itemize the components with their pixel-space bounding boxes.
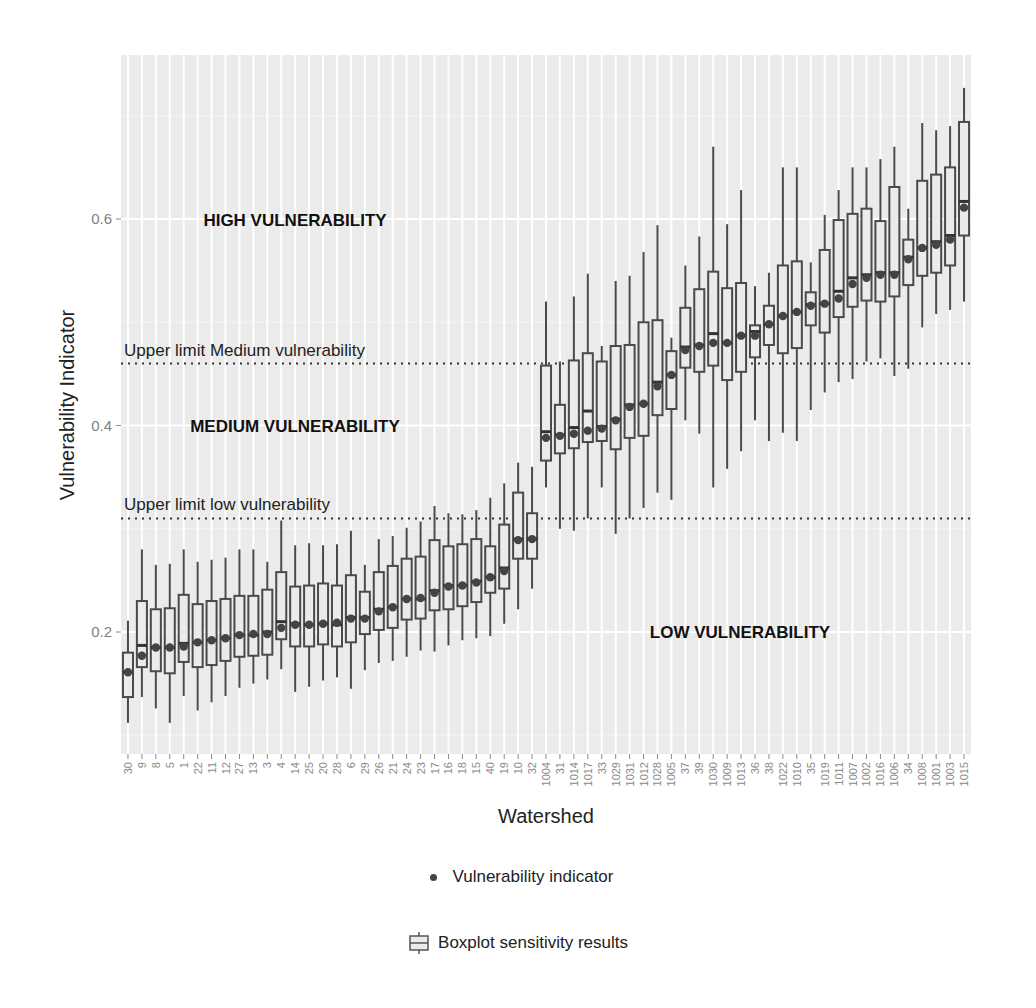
indicator-point [765, 320, 773, 328]
indicator-point [193, 638, 201, 646]
indicator-point [305, 621, 313, 629]
x-tick-label: 39 [693, 762, 705, 774]
x-tick-label: 3 [261, 762, 273, 768]
indicator-point [890, 271, 898, 279]
x-tick-label: 4 [275, 762, 287, 768]
indicator-point [807, 302, 815, 310]
indicator-point [486, 573, 494, 581]
indicator-point [904, 255, 912, 263]
y-axis-title: Vulnerability Indicator [56, 309, 78, 500]
x-tick-label: 1019 [819, 762, 831, 786]
indicator-point [625, 403, 633, 411]
x-tick-label: 1009 [721, 762, 733, 786]
indicator-point [347, 614, 355, 622]
x-tick-label: 1029 [610, 762, 622, 786]
y-axis: 0.20.40.6 [91, 210, 121, 640]
x-tick-label: 1015 [958, 762, 970, 786]
legend-label: Boxplot sensitivity results [438, 933, 628, 953]
x-tick-label: 27 [233, 762, 245, 774]
indicator-point [570, 430, 578, 438]
x-tick-label: 6 [345, 762, 357, 768]
indicator-point [500, 567, 508, 575]
indicator-point [695, 342, 703, 350]
x-tick-label: 21 [387, 762, 399, 774]
indicator-point [667, 371, 675, 379]
x-tick-label: 14 [289, 762, 301, 774]
x-tick-label: 24 [401, 762, 413, 774]
x-tick-label: 23 [415, 762, 427, 774]
x-tick-label: 37 [679, 762, 691, 774]
x-tick-label: 10 [512, 762, 524, 774]
x-tick-label: 26 [373, 762, 385, 774]
indicator-point [598, 424, 606, 432]
x-tick-label: 5 [164, 762, 176, 768]
boxplot-chart: 0.20.40.6 309851221112271334142520286292… [0, 0, 1036, 860]
x-tick-label: 22 [192, 762, 204, 774]
x-tick-label: 1008 [916, 762, 928, 786]
indicator-point [375, 607, 383, 615]
y-tick-label: 0.2 [91, 623, 112, 640]
x-tick-label: 40 [484, 762, 496, 774]
x-axis-title: Watershed [498, 805, 594, 827]
indicator-point [793, 308, 801, 316]
indicator-point [960, 203, 968, 211]
x-tick-label: 1014 [568, 762, 580, 786]
indicator-point [542, 434, 550, 442]
x-tick-label: 34 [902, 762, 914, 774]
x-tick-label: 1004 [540, 762, 552, 786]
x-tick-label: 16 [442, 762, 454, 774]
x-tick-label: 15 [470, 762, 482, 774]
indicator-point [723, 339, 731, 347]
dot-icon [423, 866, 445, 888]
indicator-point [263, 630, 271, 638]
indicator-point [416, 594, 424, 602]
y-tick-label: 0.4 [91, 417, 112, 434]
indicator-point [430, 589, 438, 597]
indicator-point [361, 614, 369, 622]
x-tick-label: 1031 [624, 762, 636, 786]
reference-line-label: Upper limit Medium vulnerability [124, 341, 365, 360]
indicator-point [472, 578, 480, 586]
x-tick-label: 1007 [847, 762, 859, 786]
x-tick-label: 1013 [735, 762, 747, 786]
indicator-point [751, 331, 759, 339]
legend-item-vulnerability-indicator: Vulnerability indicator [0, 866, 1036, 888]
indicator-point [932, 241, 940, 249]
reference-line-label: Upper limit low vulnerability [124, 495, 330, 514]
x-tick-label: 8 [150, 762, 162, 768]
indicator-point [556, 432, 564, 440]
x-tick-label: 32 [526, 762, 538, 774]
x-tick-label: 19 [498, 762, 510, 774]
x-tick-label: 12 [220, 762, 232, 774]
indicator-point [235, 631, 243, 639]
indicator-point [277, 624, 285, 632]
indicator-point [876, 271, 884, 279]
x-tick-label: 25 [303, 762, 315, 774]
region-label: MEDIUM VULNERABILITY [190, 417, 400, 436]
indicator-point [249, 630, 257, 638]
indicator-point [946, 235, 954, 243]
indicator-point [291, 621, 299, 629]
legend-label: Vulnerability indicator [453, 867, 614, 887]
x-tick-label: 1012 [638, 762, 650, 786]
x-tick-label: 1010 [791, 762, 803, 786]
x-tick-label: 9 [136, 762, 148, 768]
x-tick-label: 1028 [651, 762, 663, 786]
indicator-point [319, 620, 327, 628]
x-tick-label: 1005 [665, 762, 677, 786]
region-label: HIGH VULNERABILITY [203, 211, 387, 230]
indicator-point [221, 634, 229, 642]
indicator-point [639, 400, 647, 408]
x-tick-label: 11 [206, 762, 218, 773]
y-tick-label: 0.6 [91, 210, 112, 227]
x-tick-label: 1002 [860, 762, 872, 786]
indicator-point [514, 536, 522, 544]
indicator-point [737, 331, 745, 339]
x-tick-label: 1003 [944, 762, 956, 786]
indicator-point [333, 619, 341, 627]
indicator-point [611, 416, 619, 424]
indicator-point [653, 382, 661, 390]
x-tick-label: 1022 [777, 762, 789, 786]
x-tick-label: 1030 [707, 762, 719, 786]
boxplot-icon [408, 932, 430, 954]
